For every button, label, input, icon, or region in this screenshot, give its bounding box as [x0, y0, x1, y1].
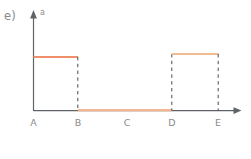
x-tick-label-c: C — [124, 117, 131, 128]
x-tick-label-d: D — [168, 117, 175, 128]
x-axis-arrowhead — [234, 107, 242, 114]
x-tick-label-b: B — [75, 117, 82, 128]
y-axis-arrowhead — [30, 10, 37, 19]
figure-part-label: e) — [4, 9, 16, 23]
acceleration-time-graph: e) a A B C D E — [0, 0, 251, 159]
y-axis-label: a — [40, 8, 45, 17]
x-tick-label-a: A — [30, 117, 37, 128]
graph-canvas — [0, 0, 251, 159]
x-tick-label-e: E — [215, 117, 221, 128]
